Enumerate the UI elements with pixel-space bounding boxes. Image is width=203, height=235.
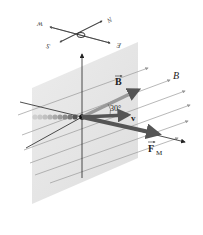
- compass-north-label: N: [105, 15, 114, 25]
- compass-south-label: S: [45, 42, 51, 51]
- force-label: F: [148, 143, 154, 154]
- compass: [50, 21, 110, 43]
- b-vector-label: B: [115, 76, 122, 87]
- vertical-plane: [32, 42, 138, 204]
- compass-east-label: E: [115, 41, 122, 50]
- field-lines-label: B: [173, 70, 179, 81]
- force-subscript: M: [156, 149, 163, 157]
- magnetic-force-diagram: 30° B B v F M W N S E: [0, 0, 203, 235]
- compass-west-label: W: [36, 20, 43, 28]
- angle-label: 30°: [110, 104, 121, 113]
- velocity-label: v: [131, 113, 136, 123]
